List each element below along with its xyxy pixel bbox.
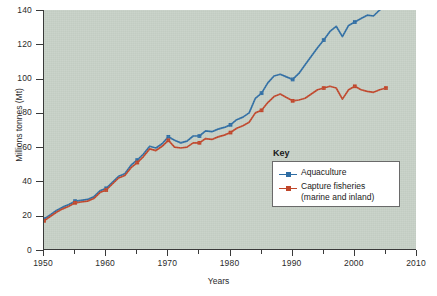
series-marker [353, 20, 357, 24]
y-axis-tick-label: 0 [0, 245, 32, 255]
x-axis-minor-tick [74, 250, 75, 254]
series-marker [353, 84, 357, 88]
x-axis-tick [354, 250, 355, 256]
series-marker [44, 219, 46, 223]
legend-line-marker-icon [279, 183, 297, 193]
x-axis-tick-label: 1960 [85, 258, 125, 268]
x-axis-tick [43, 250, 44, 256]
series-marker [166, 138, 170, 142]
x-axis-tick [167, 250, 168, 256]
y-axis-tick [36, 181, 43, 182]
x-axis-tick-label: 1970 [147, 258, 187, 268]
series-marker [198, 141, 202, 145]
legend-item-label-line1: Capture fisheries [301, 181, 365, 191]
series-marker [135, 161, 139, 165]
x-axis-minor-tick [136, 250, 137, 254]
series-marker [198, 134, 202, 138]
x-axis-minor-tick [385, 250, 386, 254]
legend-item-capture-fisheries[interactable]: Capture fisheries (marine and inland) [279, 181, 393, 202]
legend-title: Key [273, 148, 290, 158]
x-axis-tick [416, 250, 417, 256]
legend-item-aquaculture[interactable]: Aquaculture [279, 167, 393, 179]
series-marker [229, 131, 233, 135]
x-axis-tick-label: 1980 [210, 258, 250, 268]
series-layer [44, 10, 417, 250]
x-axis-tick-label: 2010 [396, 258, 436, 268]
x-axis-tick-label: 2000 [334, 258, 374, 268]
legend-item-label: Capture fisheries (marine and inland) [301, 181, 374, 202]
series-marker [104, 188, 108, 192]
y-axis-tick-label: 20 [0, 210, 32, 220]
series-marker [260, 108, 264, 112]
legend-item-label-line2: (marine and inland) [301, 192, 374, 202]
x-axis-tick-label: 1950 [23, 258, 63, 268]
legend-item-label: Aquaculture [301, 167, 346, 178]
y-axis-tick [36, 250, 43, 251]
series-marker [384, 86, 388, 90]
x-axis-tick [292, 250, 293, 256]
y-axis-tick-label: 120 [0, 39, 32, 49]
plot-area [43, 10, 416, 250]
y-axis-tick-label: 140 [0, 5, 32, 15]
series-marker [166, 135, 170, 139]
y-axis-tick [36, 147, 43, 148]
legend-box: Aquaculture Capture fisheries (marine an… [272, 161, 400, 207]
legend-line-marker-icon [279, 169, 297, 179]
y-axis-tick [36, 113, 43, 114]
x-axis-minor-tick [198, 250, 199, 254]
y-axis-title: Millions tonnes (Mt) [14, 50, 24, 200]
y-axis-tick [36, 10, 43, 11]
y-axis-tick [36, 44, 43, 45]
series-marker [260, 91, 264, 95]
x-axis-minor-tick [323, 250, 324, 254]
y-axis-tick [36, 79, 43, 80]
x-axis-tick [230, 250, 231, 256]
series-marker [291, 78, 295, 82]
series-marker [73, 201, 77, 205]
y-axis-tick [36, 216, 43, 217]
x-axis-minor-tick [261, 250, 262, 254]
x-axis-tick [105, 250, 106, 256]
x-axis-title: Years [0, 276, 437, 286]
series-marker [291, 99, 295, 103]
series-marker [322, 38, 326, 42]
series-marker [322, 86, 326, 90]
series-marker [229, 123, 233, 127]
chart-root: 020406080100120140 195019601970198019902… [0, 0, 437, 296]
x-axis-tick-label: 1990 [272, 258, 312, 268]
